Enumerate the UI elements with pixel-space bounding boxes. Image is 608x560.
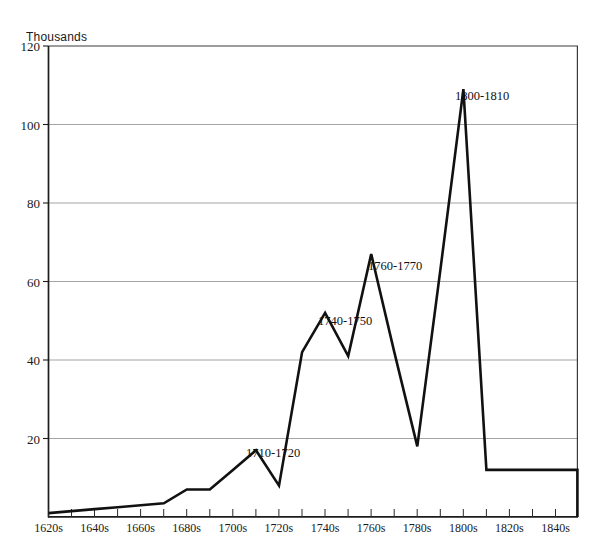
xtick-label-1840s: 1840s	[541, 521, 570, 535]
xtick-label-1700s: 1700s	[218, 521, 247, 535]
xtick-label-1720s: 1720s	[265, 521, 294, 535]
annotation-1710-1720: 1710-1720	[246, 446, 300, 460]
line-chart: 120 100 80 60 40 20	[0, 0, 608, 560]
x-tick-labels: 1620s 1640s 1660s 1680s 1700s 1720s 1740…	[34, 521, 570, 535]
xtick-label-1620s: 1620s	[34, 521, 63, 535]
ytick-label-100: 100	[21, 118, 41, 133]
gridlines	[48, 125, 578, 439]
xtick-label-1800s: 1800s	[449, 521, 478, 535]
y-tick-labels: 120 100 80 60 40 20	[21, 39, 41, 447]
xtick-label-1780s: 1780s	[403, 521, 432, 535]
ytick-label-120: 120	[21, 39, 41, 54]
x-tick-marks	[49, 509, 578, 517]
xtick-label-1680s: 1680s	[172, 521, 201, 535]
annotation-1800-1810: 1800-1810	[455, 89, 509, 103]
xtick-label-1740s: 1740s	[311, 521, 340, 535]
xtick-label-1660s: 1660s	[126, 521, 155, 535]
annotations: 1710-1720 1740-1750 1760-1770 1800-1810	[246, 89, 509, 460]
ytick-label-20: 20	[27, 432, 40, 447]
data-series-line	[49, 89, 578, 517]
ytick-label-60: 60	[27, 275, 40, 290]
chart-page: Thousands	[0, 0, 608, 560]
annotation-1740-1750: 1740-1750	[318, 314, 372, 328]
ytick-label-80: 80	[27, 196, 40, 211]
xtick-label-1640s: 1640s	[80, 521, 109, 535]
xtick-label-1760s: 1760s	[357, 521, 386, 535]
annotation-1760-1770: 1760-1770	[368, 259, 422, 273]
y-tick-marks	[43, 46, 48, 439]
ytick-label-40: 40	[27, 353, 40, 368]
xtick-label-1820s: 1820s	[495, 521, 524, 535]
